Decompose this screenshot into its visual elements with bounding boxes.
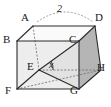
vertex-label-D: D [95, 12, 103, 23]
angle-x-label: x [49, 60, 53, 70]
vertex-label-H: H [97, 62, 105, 73]
length-arc [37, 12, 93, 22]
edge-length-label: 2 [57, 4, 62, 14]
vertex-label-A: A [21, 12, 29, 23]
vertex-label-G: G [70, 85, 78, 96]
vertex-label-B: B [3, 34, 10, 45]
vertex-label-C: C [69, 34, 76, 45]
vertex-label-F: F [5, 85, 11, 96]
cube-figure: A B C D E F G H 2 x [0, 0, 111, 107]
vertex-label-E: E [27, 61, 34, 72]
